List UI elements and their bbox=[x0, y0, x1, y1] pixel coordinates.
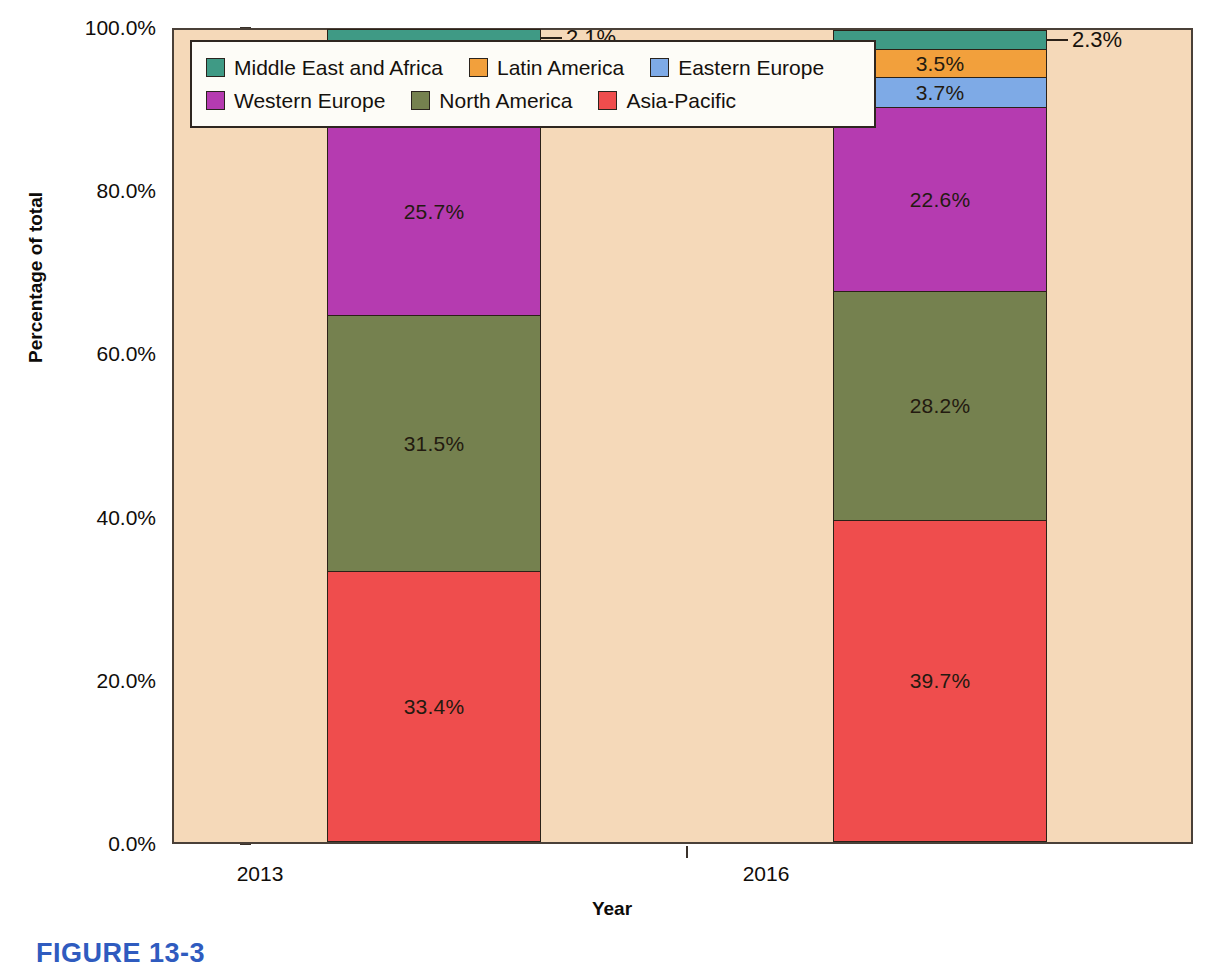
legend-label: Middle East and Africa bbox=[234, 56, 443, 80]
segment-value-label: 31.5% bbox=[404, 433, 465, 454]
stacked-bar-2013[interactable]: 2.1%3.5%3.9%25.7%31.5%33.4% bbox=[327, 29, 541, 842]
segment-value-label: 3.5% bbox=[916, 53, 965, 74]
bar-segment-north-america[interactable]: 31.5% bbox=[327, 315, 541, 571]
x-axis-center-tick bbox=[686, 846, 688, 858]
callout-leader-line bbox=[540, 37, 562, 39]
legend-item-north-america[interactable]: North America bbox=[411, 89, 572, 113]
figure-container: Percentage of total 0.0%20.0%40.0%60.0%8… bbox=[0, 0, 1224, 968]
plot-area: 2.1%3.5%3.9%25.7%31.5%33.4% 2.3%3.5%3.7%… bbox=[172, 28, 1193, 844]
legend-swatch-icon bbox=[469, 58, 488, 77]
legend-item-asia-pacific[interactable]: Asia-Pacific bbox=[598, 89, 736, 113]
segment-value-label: 25.7% bbox=[404, 201, 465, 222]
segment-value-label: 39.7% bbox=[910, 670, 971, 691]
bar-segment-western-europe[interactable]: 25.7% bbox=[327, 106, 541, 315]
legend-swatch-icon bbox=[650, 58, 669, 77]
segment-value-label: 28.2% bbox=[910, 395, 971, 416]
x-tick-label-2016: 2016 bbox=[686, 862, 846, 886]
segment-value-label: 22.6% bbox=[910, 189, 971, 210]
segment-value-label: 33.4% bbox=[404, 696, 465, 717]
chart-legend: Middle East and AfricaLatin AmericaEaste… bbox=[190, 40, 876, 128]
y-tick-label: 0.0% bbox=[108, 832, 156, 856]
legend-label: North America bbox=[439, 89, 572, 113]
x-tick-label-2013: 2013 bbox=[180, 862, 340, 886]
segment-callout: 2.3% bbox=[1046, 27, 1122, 53]
legend-label: Western Europe bbox=[234, 89, 385, 113]
x-axis-title: Year bbox=[0, 898, 1224, 920]
stacked-bar-2016[interactable]: 2.3%3.5%3.7%22.6%28.2%39.7% bbox=[833, 30, 1047, 842]
y-tick-label: 20.0% bbox=[96, 669, 156, 693]
bar-segment-western-europe[interactable]: 22.6% bbox=[833, 107, 1047, 291]
bar-segment-asia-pacific[interactable]: 39.7% bbox=[833, 520, 1047, 842]
legend-item-middle-east-and-africa[interactable]: Middle East and Africa bbox=[206, 56, 443, 80]
legend-item-latin-america[interactable]: Latin America bbox=[469, 56, 624, 80]
legend-label: Latin America bbox=[497, 56, 624, 80]
y-tick-label: 60.0% bbox=[96, 342, 156, 366]
legend-row: Western EuropeNorth AmericaAsia-Pacific bbox=[206, 84, 860, 117]
legend-label: Eastern Europe bbox=[678, 56, 824, 80]
segment-value-label: 2.3% bbox=[1072, 27, 1122, 53]
callout-leader-line bbox=[1046, 39, 1068, 41]
bar-segment-asia-pacific[interactable]: 33.4% bbox=[327, 571, 541, 842]
legend-swatch-icon bbox=[598, 91, 617, 110]
legend-row: Middle East and AfricaLatin AmericaEaste… bbox=[206, 51, 860, 84]
bar-segment-north-america[interactable]: 28.2% bbox=[833, 291, 1047, 520]
y-axis-tick-labels: 0.0%20.0%40.0%60.0%80.0%100.0% bbox=[78, 28, 166, 844]
y-tick-label: 100.0% bbox=[85, 16, 156, 40]
y-axis-title: Percentage of total bbox=[25, 323, 47, 363]
legend-swatch-icon bbox=[206, 58, 225, 77]
y-tick-label: 40.0% bbox=[96, 506, 156, 530]
y-tick-label: 80.0% bbox=[96, 179, 156, 203]
legend-label: Asia-Pacific bbox=[626, 89, 736, 113]
figure-caption: FIGURE 13-3 bbox=[36, 938, 205, 968]
legend-item-western-europe[interactable]: Western Europe bbox=[206, 89, 385, 113]
bars-layer: 2.1%3.5%3.9%25.7%31.5%33.4% 2.3%3.5%3.7%… bbox=[174, 30, 1191, 842]
legend-item-eastern-europe[interactable]: Eastern Europe bbox=[650, 56, 824, 80]
legend-swatch-icon bbox=[411, 91, 430, 110]
legend-swatch-icon bbox=[206, 91, 225, 110]
segment-value-label: 3.7% bbox=[916, 82, 965, 103]
